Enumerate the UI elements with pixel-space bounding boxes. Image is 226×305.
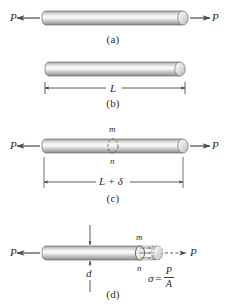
panel-a-graphic (17, 11, 210, 25)
panel-d-force-left-label: P (10, 246, 17, 258)
panel-c-force-right-label: P (212, 139, 219, 151)
stress-numerator: P (164, 266, 174, 276)
panel-d-diameter-label: d (86, 267, 92, 279)
panel-d-section-bottom-label: n (137, 263, 142, 273)
stress-formula: σ = P A (148, 266, 174, 289)
panel-c-section-top-label: m (109, 124, 116, 134)
stress-equals-sign: = (155, 272, 161, 284)
panel-c-force-left-label: P (10, 139, 17, 151)
panel-d-label: (d) (93, 288, 133, 300)
panel-a-force-left-label: P (10, 11, 17, 23)
figure-vector-layer (0, 0, 226, 305)
panel-c-section-bottom-label: n (110, 156, 115, 166)
panel-d-force-right-label: P (190, 246, 197, 258)
stress-denominator: A (164, 279, 174, 289)
panel-b-dimension-label: L (110, 82, 116, 94)
figure-prismatic-bar-tension: P P (a) L (b) P P m n L + δ (c) P P m n … (0, 0, 226, 305)
panel-b-label: (b) (93, 97, 133, 109)
panel-d-section-top-label: m (136, 232, 143, 242)
panel-a-label: (a) (93, 33, 133, 45)
stress-fraction: P A (164, 266, 174, 289)
stress-symbol: σ (148, 272, 153, 284)
panel-c-dimension-label: L + δ (99, 175, 123, 187)
panel-c-label: (c) (93, 192, 133, 204)
panel-a-force-right-label: P (212, 11, 219, 23)
